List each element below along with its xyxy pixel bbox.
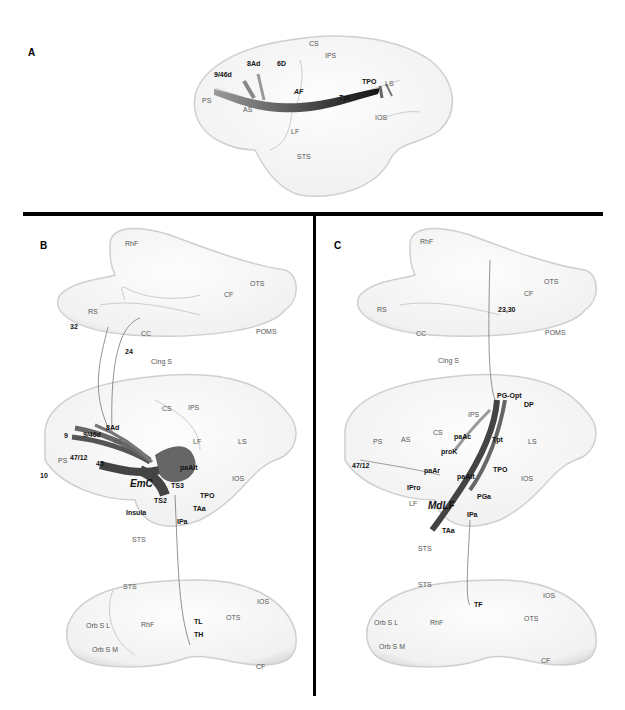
label-ios-b: IOS xyxy=(232,475,244,482)
label-emc-tract: EmC xyxy=(130,479,153,489)
label-4712-c: 47/12 xyxy=(352,462,370,469)
label-orbsm-c: Orb S M xyxy=(379,643,405,650)
label-sts-c: STS xyxy=(418,545,432,552)
label-rhf: RhF xyxy=(125,240,138,247)
label-cs: CS xyxy=(309,40,319,47)
label-2330: 23,30 xyxy=(498,306,516,313)
label-cs-b: CS xyxy=(162,405,172,412)
panel-label-a: A xyxy=(28,47,35,58)
label-af-tract: AF xyxy=(294,88,303,95)
label-4712-b: 47/12 xyxy=(70,454,88,461)
label-ps: PS xyxy=(202,97,211,104)
label-orbsl-b: Orb S L xyxy=(86,622,110,629)
label-cf-c: CF xyxy=(524,290,533,297)
label-ls: LS xyxy=(385,80,394,87)
label-8ad-b: 8Ad xyxy=(106,424,119,431)
panel-c-lateral-brain xyxy=(345,375,596,530)
label-insula: Insula xyxy=(126,509,146,516)
label-tl: TL xyxy=(194,618,203,625)
label-8ad: 8Ad xyxy=(247,60,260,67)
label-tpo-b: TPO xyxy=(200,492,214,499)
label-paar: paAr xyxy=(424,467,440,474)
label-cc-c: CC xyxy=(416,330,426,337)
label-45: 45 xyxy=(96,460,104,467)
label-10: 10 xyxy=(40,472,48,479)
label-rhf-c: RhF xyxy=(420,238,433,245)
label-th: TH xyxy=(194,631,203,638)
label-ips-b: IPS xyxy=(188,404,199,411)
label-cf: CF xyxy=(224,291,233,298)
label-rhf-cv: RhF xyxy=(430,619,443,626)
label-ipa-b: IPa xyxy=(177,518,188,525)
label-ios-bv: IOS xyxy=(257,598,269,605)
label-tpo-c: TPO xyxy=(493,466,507,473)
label-cf-cv: CF xyxy=(541,657,550,664)
label-ios-c: IOS xyxy=(521,475,533,482)
label-orbsm-b: Orb S M xyxy=(92,646,118,653)
label-paalt-c: paAlt xyxy=(457,473,475,480)
label-ipro: IPro xyxy=(407,484,421,491)
label-ots-bv: OTS xyxy=(226,614,240,621)
label-ips: IPS xyxy=(325,52,336,59)
label-pg-opt: PG-Opt xyxy=(497,392,522,399)
label-cs-c: CS xyxy=(433,429,443,436)
label-sts: STS xyxy=(297,153,311,160)
label-24: 24 xyxy=(125,348,133,355)
panel-c-medial-brain xyxy=(358,228,597,336)
label-ots-c: OTS xyxy=(544,278,558,285)
label-lf-c: LF xyxy=(409,500,417,507)
label-ipa-c: IPa xyxy=(467,511,478,518)
label-ts2: TS2 xyxy=(154,497,167,504)
label-946d-b: 9/46d xyxy=(83,431,101,438)
label-paac: paAc xyxy=(454,433,471,440)
label-cing-s: Cing S xyxy=(151,358,172,365)
vertical-divider xyxy=(313,213,316,696)
label-tpo: TPO xyxy=(362,78,376,85)
label-mdlf-tract: MdLF xyxy=(428,501,455,511)
label-lf: LF xyxy=(291,128,299,135)
label-taa-b: TAa xyxy=(193,505,206,512)
label-ls-b: LS xyxy=(238,438,247,445)
label-rs-c: RS xyxy=(377,306,387,313)
label-ps-b: PS xyxy=(58,457,67,464)
label-orbsl-c: Orb S L xyxy=(374,619,398,626)
label-taa-c: TAa xyxy=(442,527,455,534)
label-cing-s-c: Cing S xyxy=(438,357,459,364)
label-poms-c: POMS xyxy=(545,329,566,336)
panel-a-brain xyxy=(194,36,452,196)
label-9: 9 xyxy=(64,432,68,439)
label-ots: OTS xyxy=(250,280,264,287)
label-lf-b: LF xyxy=(193,438,201,445)
label-tf: TF xyxy=(474,601,483,608)
figure-canvas xyxy=(0,0,625,710)
label-as-c: AS xyxy=(401,436,410,443)
panel-label-b: B xyxy=(40,240,47,251)
label-cf-bv: CF xyxy=(256,663,265,670)
label-tpt-c: Tpt xyxy=(492,436,503,443)
label-poms: POMS xyxy=(256,328,277,335)
label-cc: CC xyxy=(141,330,151,337)
label-6d: 6D xyxy=(277,60,286,67)
label-ts3: TS3 xyxy=(171,482,184,489)
label-ios-cv: IOS xyxy=(543,592,555,599)
label-946d: 9/46d xyxy=(214,71,232,78)
label-ips-c: IPS xyxy=(468,411,479,418)
label-as-b: AS xyxy=(113,438,122,445)
label-pga: PGa xyxy=(477,493,491,500)
panel-c-ventral-brain xyxy=(367,580,597,667)
panel-b-lateral-brain xyxy=(45,375,296,527)
label-dp: DP xyxy=(524,401,534,408)
label-ls-c: LS xyxy=(528,438,537,445)
label-rs: RS xyxy=(88,308,98,315)
label-tpt: Tpt xyxy=(339,94,350,101)
label-sts-bv: STS xyxy=(123,583,137,590)
label-ps-c: PS xyxy=(373,438,382,445)
label-rhf-bv: RhF xyxy=(141,621,154,628)
label-32: 32 xyxy=(70,323,78,330)
label-paalt-b: paAlt xyxy=(180,464,198,471)
label-sts-cv: STS xyxy=(418,581,432,588)
panel-label-c: C xyxy=(334,240,341,251)
label-ios: IOS xyxy=(375,114,387,121)
label-sts-b: STS xyxy=(132,536,146,543)
label-ots-cv: OTS xyxy=(524,615,538,622)
